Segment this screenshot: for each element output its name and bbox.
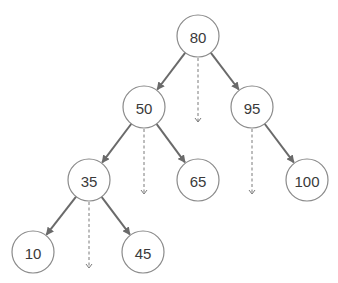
tree-node-35: 35: [68, 159, 110, 201]
tree-node-80: 80: [177, 15, 219, 57]
node-label: 80: [190, 29, 207, 46]
node-label: 45: [135, 245, 152, 262]
edge-35-to-45: [102, 197, 130, 235]
dashed-arrow-from-50: [141, 129, 147, 194]
dashed-arrow-from-95: [249, 129, 255, 194]
node-label: 65: [190, 173, 207, 190]
edge-50-to-35: [102, 124, 131, 163]
tree-diagram: 80509535651001045: [0, 0, 338, 283]
edge-80-to-50: [157, 53, 185, 90]
edges: [47, 53, 294, 235]
tree-node-45: 45: [122, 231, 164, 273]
node-label: 50: [136, 100, 153, 117]
tree-node-10: 10: [12, 231, 54, 273]
edge-50-to-65: [156, 124, 184, 162]
tree-node-100: 100: [286, 159, 328, 201]
node-label: 10: [25, 245, 42, 262]
dashed-arrow-from-35: [86, 202, 92, 268]
edge-95-to-100: [265, 124, 294, 163]
edge-35-to-10: [47, 197, 77, 235]
dashed-arrows: [86, 58, 255, 268]
tree-node-65: 65: [177, 159, 219, 201]
dashed-arrow-from-80: [195, 58, 201, 122]
node-label: 100: [294, 173, 319, 190]
node-label: 95: [244, 100, 261, 117]
tree-node-95: 95: [231, 86, 273, 128]
tree-node-50: 50: [123, 86, 165, 128]
edge-80-to-95: [211, 53, 239, 90]
node-label: 35: [81, 173, 98, 190]
